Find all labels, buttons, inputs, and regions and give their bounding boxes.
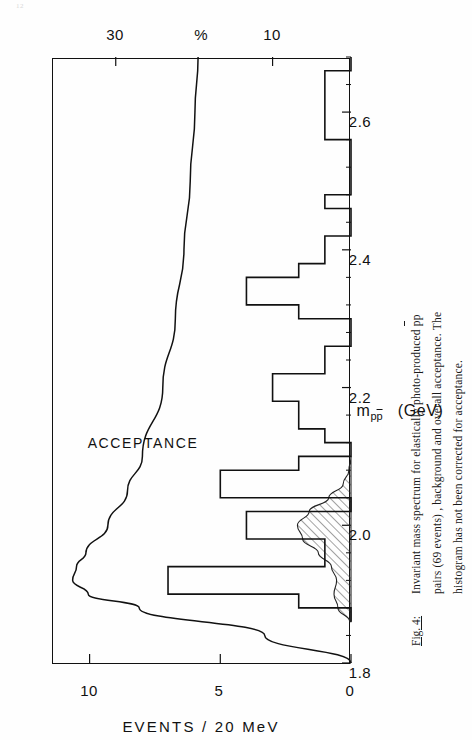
secondary-axis-title: % [194,26,207,43]
x-axis-title-symbol: m [357,402,371,419]
figure-canvas: ACCEPTANCE 1.82.02.22.42.6 0510 1030 mpp… [0,0,472,740]
secondary-y-tick-label: 30 [106,26,124,43]
x-tick-label: 2.0 [349,526,371,543]
secondary-y-tick-label: 10 [263,26,281,43]
y-tick-label: 0 [346,682,355,699]
acceptance-curve [73,57,351,663]
x-tick-label: 2.6 [349,113,371,130]
acceptance-curve-label: ACCEPTANCE [88,435,199,451]
plot-frame: ACCEPTANCE [52,58,350,664]
x-axis-title-subscript-bar: p [377,411,383,423]
caption-pbar-symbol: p [406,320,427,326]
caption-part-1: Invariant mass spectrum for elastically … [410,326,422,594]
y-tick-label: 5 [215,682,224,699]
x-tick-label: 2.4 [349,251,371,268]
figure-caption-text: Invariant mass spectrum for elastically … [406,86,469,594]
y-axis-ticks-left [90,654,351,663]
figure-page: 12 ACCE [0,0,472,740]
caption-part-2: pairs (69 events) , background and overa… [431,312,443,594]
caption-part-3: histogram has not been corrected for acc… [452,360,464,594]
y-axis-title: EVENTS / 20 MeV [122,718,279,735]
rotated-figure-wrap: ACCEPTANCE 1.82.02.22.42.6 0510 1030 mpp… [0,0,472,740]
x-tick-label: 1.8 [349,664,371,681]
caption-row-1: Fig. 4: Invariant mass spectrum for elas… [406,86,469,646]
y-axis-ticks-right [116,57,273,66]
x-axis-title-subscript: pp [370,411,382,423]
figure-caption: Fig. 4: Invariant mass spectrum for elas… [406,86,469,646]
y-tick-label: 10 [80,682,98,699]
plot-graphics [53,57,351,663]
figure-number-label: Fig. 4: [406,616,427,646]
